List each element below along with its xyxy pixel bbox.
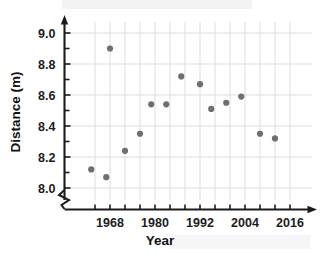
x-axis-title: Year: [146, 233, 175, 248]
data-point: [103, 174, 109, 180]
data-point: [223, 100, 229, 106]
data-point: [208, 106, 214, 112]
page-artifact-top: [62, 0, 252, 9]
y-tick-label: 8.2: [38, 151, 55, 165]
data-point: [178, 73, 184, 79]
data-point: [238, 93, 244, 99]
x-tick-label: 1992: [186, 216, 214, 230]
y-tick-label: 8.4: [38, 120, 55, 134]
y-tick-label: 9.0: [38, 27, 55, 41]
data-point: [163, 101, 169, 107]
data-point: [197, 81, 203, 87]
x-tick-label: 2004: [231, 216, 259, 230]
y-tick-label: 8.8: [38, 58, 55, 72]
data-point: [137, 131, 143, 137]
x-tick-label: 1968: [96, 216, 124, 230]
y-axis-title: Distance (m): [8, 71, 23, 152]
y-tick-label: 8.0: [38, 182, 55, 196]
data-point: [148, 101, 154, 107]
y-tick-label: 8.6: [38, 89, 55, 103]
page-artifact-bottom: [170, 235, 310, 249]
data-point: [107, 45, 113, 51]
x-tick-label: 2016: [276, 216, 304, 230]
data-point: [122, 148, 128, 154]
data-point: [88, 166, 94, 172]
scatter-chart: 8.08.28.48.68.89.0 19681980199220042016 …: [0, 0, 324, 253]
chart-canvas: 8.08.28.48.68.89.0 19681980199220042016 …: [0, 0, 324, 253]
data-point: [257, 131, 263, 137]
data-point: [272, 135, 278, 141]
x-tick-label: 1980: [141, 216, 169, 230]
